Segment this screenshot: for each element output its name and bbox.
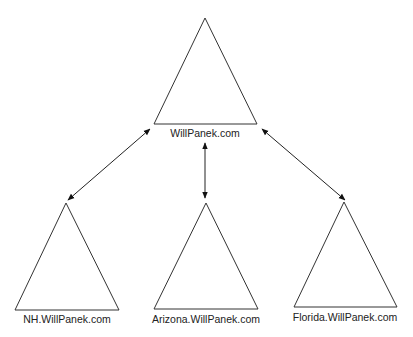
- child-domain-node-arizona: Arizona.WillPanek.com: [152, 203, 260, 325]
- arizona-tree-triangle: [154, 203, 258, 309]
- child-domain-node-nh: NH.WillPanek.com: [15, 203, 119, 325]
- nh-domain-label: NH.WillPanek.com: [23, 313, 111, 325]
- child-domain-node-florida: Florida.WillPanek.com: [293, 202, 398, 323]
- florida-tree-triangle: [294, 202, 397, 307]
- root-tree-triangle: [154, 18, 257, 124]
- trust-arrow-florida: [262, 129, 345, 200]
- root-domain-label: WillPanek.com: [170, 127, 240, 139]
- arizona-domain-label: Arizona.WillPanek.com: [152, 313, 260, 325]
- florida-domain-label: Florida.WillPanek.com: [293, 311, 398, 323]
- domain-tree-diagram: WillPanek.com NH.WillPanek.com Arizona.W…: [0, 0, 413, 337]
- trust-arrow-nh: [68, 129, 150, 200]
- root-domain-node: WillPanek.com: [154, 18, 257, 139]
- nh-tree-triangle: [15, 203, 119, 310]
